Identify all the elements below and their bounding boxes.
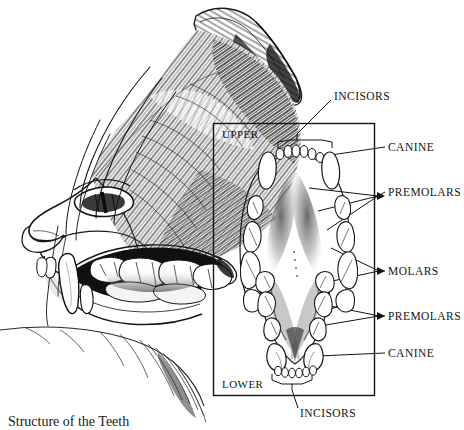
label-premolars-upper: PREMOLARS	[388, 186, 461, 198]
label-incisors-upper: INCISORS	[334, 90, 390, 102]
lower-left-molar	[256, 272, 275, 293]
label-molars: MOLARS	[388, 265, 439, 277]
label-canine-upper: CANINE	[388, 141, 434, 153]
lower-jaw-arcade	[256, 272, 334, 378]
upper-incisors	[276, 145, 324, 163]
figure-canvas: UPPER LOWER INCISORS CANINE PREMOLARS MO…	[0, 0, 464, 430]
upper-right-premolars	[335, 196, 358, 289]
dental-inset	[0, 0, 464, 430]
lower-incisors	[275, 366, 317, 378]
upper-right-molar	[336, 290, 355, 312]
inset-label-upper: UPPER	[222, 128, 259, 140]
label-canine-lower: CANINE	[388, 347, 434, 359]
figure-caption: Structure of the Teeth	[8, 414, 129, 430]
label-premolars-lower: PREMOLARS	[388, 310, 461, 322]
label-incisors-lower: INCISORS	[300, 407, 356, 419]
inset-label-lower: LOWER	[222, 378, 263, 390]
lower-right-molar	[316, 272, 335, 293]
